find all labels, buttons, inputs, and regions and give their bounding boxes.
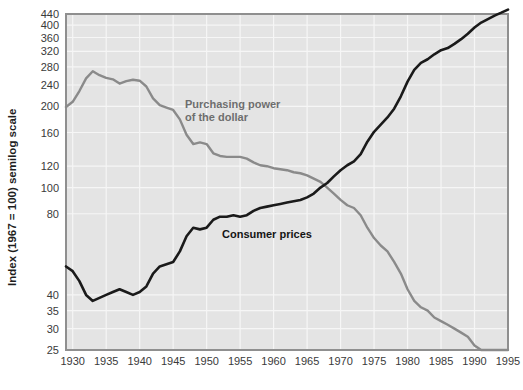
x-tick-label: 1975 — [362, 355, 386, 367]
y-tick-label: 40 — [47, 289, 59, 301]
y-tick-label: 35 — [47, 305, 59, 317]
y-tick-label: 240 — [41, 79, 59, 91]
plot-area-background — [66, 14, 508, 350]
series-label-consumer-prices: Consumer prices — [222, 228, 312, 240]
y-tick-label: 440 — [41, 8, 59, 20]
y-tick-label: 160 — [41, 127, 59, 139]
series-label-purchasing-power-line1: Purchasing power — [185, 98, 281, 110]
y-tick-label: 200 — [41, 100, 59, 112]
x-tick-label: 1970 — [328, 355, 352, 367]
y-tick-label: 80 — [47, 208, 59, 220]
semilog-line-chart: 2530354080100120160200240280320360400440… — [0, 0, 523, 390]
x-tick-label: 1945 — [161, 355, 185, 367]
y-tick-label: 400 — [41, 19, 59, 31]
x-tick-label: 1960 — [261, 355, 285, 367]
y-tick-label: 280 — [41, 61, 59, 73]
y-tick-label: 30 — [47, 323, 59, 335]
x-tick-label: 1950 — [194, 355, 218, 367]
series-label-purchasing-power-line2: of the dollar — [185, 111, 249, 123]
chart-container: 2530354080100120160200240280320360400440… — [0, 0, 523, 390]
y-tick-label: 360 — [41, 32, 59, 44]
y-tick-label: 25 — [47, 344, 59, 356]
y-tick-label: 320 — [41, 45, 59, 57]
x-tick-label: 1980 — [395, 355, 419, 367]
x-tick-label: 1955 — [228, 355, 252, 367]
x-tick-label: 1930 — [60, 355, 84, 367]
y-axis-title: Index (1967 = 100) semilog scale — [6, 109, 18, 286]
x-tick-label: 1990 — [462, 355, 486, 367]
x-tick-label: 1940 — [127, 355, 151, 367]
x-tick-label: 1965 — [295, 355, 319, 367]
x-tick-label: 1995 — [496, 355, 520, 367]
x-tick-label: 1935 — [94, 355, 118, 367]
y-tick-label: 120 — [41, 160, 59, 172]
x-tick-label: 1985 — [429, 355, 453, 367]
y-tick-label: 100 — [41, 182, 59, 194]
